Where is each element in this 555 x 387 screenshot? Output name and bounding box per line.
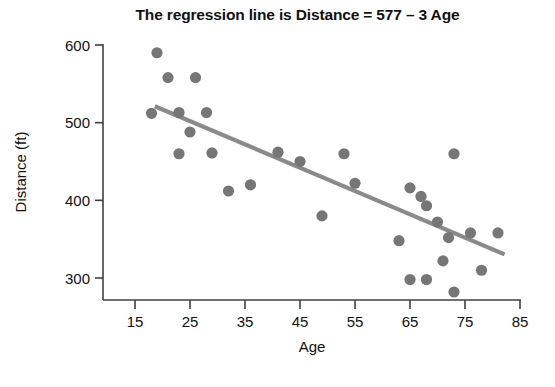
data-point [437,255,448,266]
data-point [316,210,327,221]
data-point [338,148,349,159]
y-axis-tick-labels: 300400500600 [65,37,90,287]
data-point-group [146,47,504,297]
data-point [421,200,432,211]
data-point [184,126,195,137]
x-tick-label: 55 [347,313,364,330]
data-point [162,72,173,83]
data-point [272,147,283,158]
x-tick-label: 25 [182,313,199,330]
regression-line [155,106,505,254]
data-point [349,178,360,189]
data-point [476,265,487,276]
data-point [393,235,404,246]
data-point [448,286,459,297]
data-point [294,156,305,167]
data-point [173,107,184,118]
data-point [432,216,443,227]
data-point [404,182,415,193]
x-axis-title: Age [299,338,326,355]
data-point [448,148,459,159]
x-tick-label: 85 [512,313,529,330]
x-axis-ticks [135,300,520,309]
scatter-plot-figure: The regression line is Distance = 577 – … [0,0,555,387]
data-point [415,191,426,202]
x-tick-label: 35 [237,313,254,330]
data-point [201,107,212,118]
x-tick-label: 75 [457,313,474,330]
x-axis-tick-labels: 1525354555657585 [127,313,529,330]
data-point [223,185,234,196]
data-point [443,232,454,243]
x-tick-label: 65 [402,313,419,330]
data-point [173,148,184,159]
data-point [492,227,503,238]
x-tick-label: 15 [127,313,144,330]
data-point [421,274,432,285]
data-point [245,179,256,190]
x-tick-label: 45 [292,313,309,330]
y-tick-label: 500 [65,114,90,131]
plot-area: 300400500600 1525354555657585 Age Distan… [0,0,555,387]
y-tick-label: 300 [65,270,90,287]
y-tick-label: 400 [65,192,90,209]
y-axis-title: Distance (ft) [12,132,29,213]
data-point [465,227,476,238]
data-point [206,147,217,158]
data-point [146,108,157,119]
y-tick-label: 600 [65,37,90,54]
data-point [190,72,201,83]
data-point [151,47,162,58]
y-axis-ticks [95,45,103,278]
data-point [404,274,415,285]
